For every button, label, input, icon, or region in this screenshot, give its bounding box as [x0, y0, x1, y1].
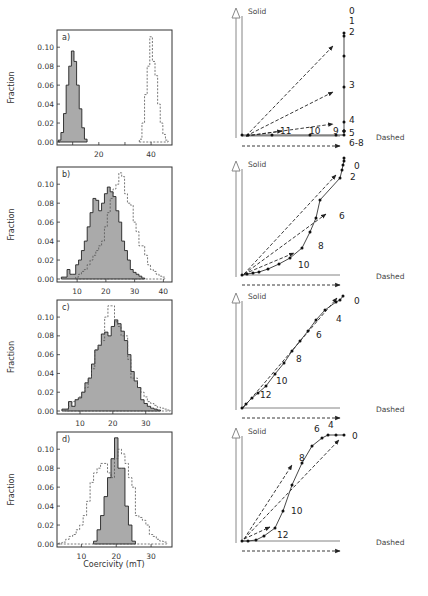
dashed-histogram: [139, 37, 168, 142]
endpoint-dot: [343, 157, 346, 160]
solid-label: Solid: [248, 292, 267, 301]
step-label: 12: [260, 390, 271, 400]
histogram-panel-c: 0.000.020.040.060.080.10102030c)Fraction: [7, 300, 172, 428]
x-tick-label: 20: [101, 287, 111, 296]
endpoint-dot: [247, 540, 250, 543]
endpoint-dot: [241, 407, 244, 410]
vector-diagram-3: SolidDashed04681012: [232, 292, 405, 418]
step-label: 0: [349, 6, 355, 16]
endpoint-dot: [343, 32, 346, 35]
dashed-label: Dashed: [376, 405, 405, 414]
endpoint-dot: [341, 169, 344, 172]
endpoint-dot: [258, 271, 261, 274]
endpoint-dot: [289, 257, 292, 260]
y-tick-label: 0.04: [37, 100, 54, 109]
endpoint-dot: [335, 301, 338, 304]
step-label: 5: [349, 128, 355, 138]
vector-diagram-2: SolidDashed026810: [232, 157, 405, 286]
endpoint-dot: [241, 134, 244, 137]
y-axis-title: Fraction: [7, 474, 16, 506]
endpoint-dot: [321, 437, 324, 440]
endpoint-dot: [291, 484, 294, 487]
endpoint-dot: [241, 540, 244, 543]
endpoint-dot: [343, 130, 346, 133]
endpoint-dot: [255, 539, 258, 542]
x-tick-label: 30: [146, 552, 156, 561]
step-label: 8: [318, 241, 324, 251]
step-label: 4: [328, 420, 334, 430]
arrow-head-icon: [232, 8, 240, 18]
endpoint-dot: [343, 434, 346, 437]
dashed-label: Dashed: [376, 272, 405, 281]
step-label: 10: [276, 376, 288, 386]
endpoint-dot: [343, 134, 346, 137]
step-label: 9: [333, 126, 339, 136]
vector-arrow: [244, 440, 339, 539]
solid-histogram: [58, 51, 87, 142]
endpoint-dot: [342, 164, 345, 167]
panel-label: a): [62, 33, 70, 42]
y-tick-label: 0.08: [37, 199, 54, 208]
step-label: 1: [349, 16, 355, 26]
endpoint-dot: [307, 330, 310, 333]
y-axis-title: Fraction: [7, 341, 16, 373]
x-tick-label: 10: [75, 419, 85, 428]
endpoint-dot: [342, 295, 345, 298]
step-label: 0: [354, 296, 360, 306]
x-tick-label: 30: [141, 419, 151, 428]
y-tick-label: 0.10: [37, 43, 54, 52]
histogram-panel-b: 0.000.020.040.060.080.1010203040b)Fracti…: [7, 167, 172, 296]
vector-diagrams: SolidDashed0123456-891011SolidDashed0268…: [232, 6, 405, 551]
y-tick-label: 0.06: [37, 350, 54, 359]
vector-diagram-1: SolidDashed0123456-891011: [232, 6, 405, 148]
endpoint-dot: [327, 434, 330, 437]
endpoint-dot: [283, 362, 286, 365]
y-tick-label: 0.08: [37, 331, 54, 340]
vector-arrow: [246, 46, 333, 136]
step-label: 12: [277, 530, 288, 540]
endpoint-dot: [241, 274, 244, 277]
y-tick-label: 0.00: [37, 138, 54, 147]
endpoint-dot: [251, 397, 254, 400]
y-tick-label: 0.06: [37, 483, 54, 492]
step-label: 4: [349, 115, 355, 125]
endpoint-dot: [309, 231, 312, 234]
dashed-label: Dashed: [376, 133, 405, 142]
step-label: 11: [280, 126, 291, 136]
endpoint-dot: [319, 199, 322, 202]
y-tick-label: 0.00: [37, 275, 54, 284]
x-tick-label: 20: [108, 419, 118, 428]
solid-label: Solid: [248, 160, 267, 169]
y-tick-label: 0.10: [37, 445, 54, 454]
step-label: 6: [316, 330, 322, 340]
panel-label: b): [62, 170, 70, 179]
endpoint-dot: [343, 86, 346, 89]
histogram-panel-a: 0.000.020.040.060.080.102040a)Fraction: [7, 30, 172, 159]
vector-arrow: [243, 298, 337, 408]
endpoint-dot: [343, 35, 346, 38]
endpoint-dot: [315, 217, 318, 220]
endpoint-dot: [324, 309, 327, 312]
dashed-label: Dashed: [376, 538, 405, 547]
y-tick-label: 0.10: [37, 180, 54, 189]
endpoint-dot: [343, 160, 346, 163]
endpoint-dot: [263, 535, 266, 538]
solid-label: Solid: [248, 7, 267, 16]
endpoint-dot: [267, 268, 270, 271]
y-tick-label: 0.02: [37, 119, 54, 128]
y-tick-label: 0.08: [37, 464, 54, 473]
step-label: 8: [296, 354, 302, 364]
endpoint-dot: [343, 55, 346, 58]
step-label: 2: [350, 172, 356, 182]
solid-histogram: [61, 187, 144, 279]
y-axis-title: Fraction: [7, 209, 16, 241]
x-tick-label: 40: [146, 150, 156, 159]
solid-label: Solid: [248, 427, 267, 436]
endpoint-curve: [242, 33, 344, 135]
y-tick-label: 0.02: [37, 256, 54, 265]
step-label: 6: [339, 211, 345, 221]
x-axis-title: Coercivity (mT): [83, 560, 144, 569]
panel-label: d): [62, 435, 70, 444]
endpoint-dot: [278, 263, 281, 266]
endpoint-dot: [252, 272, 255, 275]
